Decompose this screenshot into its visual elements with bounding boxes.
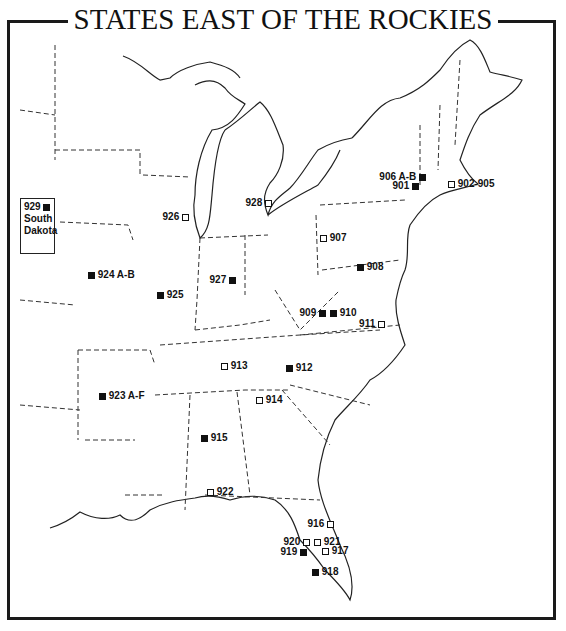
map-marker-928[interactable]: 928: [246, 197, 272, 208]
inset-number: 929: [24, 201, 41, 212]
border-ok-tx: [20, 405, 80, 410]
border-pa-ny: [320, 200, 405, 205]
filled-square-icon: [419, 174, 426, 181]
open-square-icon: [322, 548, 329, 555]
map-marker-912[interactable]: 912: [286, 362, 312, 373]
filled-square-icon: [201, 435, 208, 442]
map-marker-921[interactable]: 921: [314, 536, 340, 547]
border-ga-sc: [282, 390, 330, 445]
open-square-icon: [448, 181, 455, 188]
open-square-icon: [314, 539, 321, 546]
open-square-icon: [256, 397, 263, 404]
marker-label: 921: [324, 536, 341, 547]
map-marker-922[interactable]: 922: [207, 486, 233, 497]
map-marker-916[interactable]: 916: [308, 518, 334, 529]
marker-label: 913: [231, 360, 248, 371]
border-mo-ar: [78, 350, 155, 365]
inset-line1: South: [24, 213, 51, 225]
map-marker-920[interactable]: 920: [284, 536, 310, 547]
filled-square-icon: [88, 272, 95, 279]
open-square-icon: [320, 235, 327, 242]
map-marker-910[interactable]: 910: [330, 307, 356, 318]
filled-square-icon: [229, 277, 236, 284]
filled-square-icon: [357, 264, 364, 271]
lake-erie-shoreline: [268, 150, 340, 215]
border-ia-south: [60, 222, 133, 240]
border-ia-north: [55, 150, 140, 175]
filled-square-icon: [412, 183, 419, 190]
filled-square-icon: [300, 549, 307, 556]
open-square-icon: [221, 363, 228, 370]
marker-label: 927: [210, 274, 227, 285]
marker-label: 919: [281, 546, 298, 557]
lake-superior-shoreline: [123, 56, 240, 80]
border-nh-me: [455, 60, 460, 145]
border-wi-il: [143, 175, 190, 177]
map-marker-927[interactable]: 927: [210, 274, 236, 285]
map-marker-915[interactable]: 915: [201, 432, 227, 443]
marker-label: 922: [217, 486, 234, 497]
map-marker-926[interactable]: 926: [163, 211, 189, 222]
filled-square-icon: [286, 365, 293, 372]
inset-line2: Dakota: [24, 225, 51, 237]
marker-label: 925: [167, 289, 184, 300]
marker-label: 911: [359, 318, 375, 329]
map-marker-908[interactable]: 908: [357, 261, 383, 272]
filled-square-icon: [43, 204, 50, 211]
border-il-in: [195, 238, 200, 330]
open-square-icon: [182, 214, 189, 221]
border-oh-pa: [316, 215, 318, 275]
lake-michigan-shoreline: [194, 81, 245, 238]
border-al-ga: [237, 392, 250, 495]
map-title-text: STATES EAST OF THE ROCKIES: [68, 3, 499, 35]
michigan-lower-peninsula: [225, 102, 352, 215]
map-marker-914[interactable]: 914: [256, 394, 282, 405]
marker-label: 923 A-F: [109, 390, 145, 401]
map-marker-913[interactable]: 913: [221, 360, 247, 371]
map-marker-906-a-b[interactable]: 906 A-B: [379, 171, 426, 182]
map-marker-907[interactable]: 907: [320, 232, 346, 243]
map-marker-918[interactable]: 918: [312, 566, 338, 577]
marker-label: 908: [367, 261, 384, 272]
border-il-ky: [195, 320, 270, 330]
filled-square-icon: [319, 310, 326, 317]
open-square-icon: [378, 321, 385, 328]
marker-label: 915: [211, 432, 228, 443]
open-square-icon: [265, 200, 272, 207]
filled-square-icon: [312, 569, 319, 576]
border-ks-mo: [20, 300, 75, 305]
map-marker-902-905[interactable]: 902-905: [448, 178, 494, 189]
map-marker-924-a-b[interactable]: 924 A-B: [88, 269, 135, 280]
map-marker-919[interactable]: 919: [281, 546, 307, 557]
border-nd-mn: [20, 110, 55, 115]
marker-label: 909: [300, 307, 317, 318]
marker-label: 928: [246, 197, 263, 208]
map-marker-923-a-f[interactable]: 923 A-F: [99, 390, 145, 401]
marker-label: 912: [296, 362, 313, 373]
marker-label: 920: [284, 536, 301, 547]
border-ky-tn: [160, 330, 380, 345]
marker-label: 916: [308, 518, 325, 529]
filled-square-icon: [99, 393, 106, 400]
border-vt-nh: [438, 105, 440, 170]
open-square-icon: [327, 521, 334, 528]
filled-square-icon: [330, 310, 337, 317]
marker-label: 902-905: [458, 178, 495, 189]
filled-square-icon: [157, 292, 164, 299]
border-ms-al: [185, 395, 190, 510]
marker-label: 910: [340, 307, 357, 318]
map-marker-909[interactable]: 909: [300, 307, 326, 318]
open-square-icon: [303, 539, 310, 546]
border-mi-in-oh: [200, 235, 268, 238]
marker-label: 906 A-B: [379, 171, 416, 182]
marker-label: 926: [163, 211, 180, 222]
border-va-nc: [300, 325, 400, 335]
map-marker-925[interactable]: 925: [157, 289, 183, 300]
south-dakota-inset: 929 South Dakota: [20, 198, 55, 254]
map-title: STATES EAST OF THE ROCKIES: [0, 2, 566, 36]
marker-label: 924 A-B: [98, 269, 135, 280]
open-square-icon: [207, 489, 214, 496]
marker-label: 907: [330, 232, 347, 243]
marker-label: 918: [322, 566, 339, 577]
map-marker-911[interactable]: 911: [359, 318, 385, 329]
